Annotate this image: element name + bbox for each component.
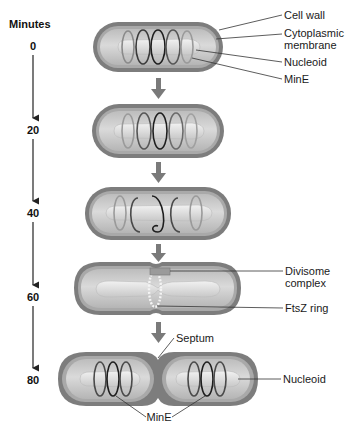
label-ftsz-ring: FtsZ ring: [285, 302, 328, 314]
tick-0: 0: [30, 40, 36, 52]
cell-stage-0: [93, 22, 223, 72]
tick-80: 80: [27, 374, 39, 386]
timeline: Minutes 0 20 40 60 80: [9, 18, 51, 386]
label-nucleoid: Nucleoid: [284, 56, 327, 68]
nucleoid: [106, 205, 212, 221]
label-mine: MinE: [284, 73, 309, 85]
label-membrane: membrane: [284, 39, 337, 51]
cell-stage-20: [92, 104, 224, 158]
down-arrow-icon: [151, 78, 166, 99]
nucleoid: [114, 123, 204, 139]
down-arrow-icon: [151, 244, 166, 262]
label-nucleoid: Nucleoid: [283, 373, 326, 385]
tick-60: 60: [27, 291, 39, 303]
label-complex: complex: [285, 277, 326, 289]
tick-20: 20: [27, 124, 39, 136]
cell-stage-40: [85, 187, 231, 240]
label-cytoplasmic: Cytoplasmic: [284, 27, 344, 39]
nucleoid: [118, 39, 200, 55]
cell-stage-80: [58, 352, 258, 406]
down-arrow-icon: [151, 162, 166, 183]
cell-division-diagram: Minutes 0 20 40 60 80 Cell wall: [0, 0, 346, 431]
label-septum: Septum: [176, 332, 214, 344]
tick-40: 40: [27, 207, 39, 219]
label-divisome: Divisome: [285, 265, 330, 277]
down-arrow-icon: [151, 322, 166, 343]
divisome-complex: [150, 268, 170, 275]
timeline-title: Minutes: [9, 18, 51, 30]
nucleoid-right: [176, 371, 240, 387]
label-cell-wall: Cell wall: [284, 9, 325, 21]
label-mine: MinE: [146, 411, 171, 423]
